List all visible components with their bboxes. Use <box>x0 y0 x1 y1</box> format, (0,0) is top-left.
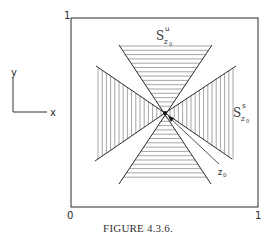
axis-indicator: y x <box>11 67 56 118</box>
x-axis-label: x <box>50 107 56 118</box>
cone-boundary-line <box>165 113 232 159</box>
cone-boundary-line <box>95 113 165 161</box>
label-z-sub: z <box>164 38 168 46</box>
corner-label-top-left: 1 <box>64 10 70 21</box>
cone-boundary-line <box>165 66 236 113</box>
z0-pointer-line <box>170 118 219 164</box>
unstable-cone-upper-hatching <box>120 46 212 106</box>
z0-label-main: z <box>218 168 222 177</box>
z0-label: z 0 <box>218 168 227 178</box>
label-s-main: S <box>233 106 241 120</box>
label-0-subsub: 0 <box>169 41 172 47</box>
label-z-sub: z <box>241 115 245 123</box>
label-s-main: S <box>156 29 164 43</box>
stable-region-label: S s z 0 <box>233 102 249 124</box>
label-0-subsub: 0 <box>246 118 249 124</box>
label-u-sup: u <box>165 25 169 33</box>
z0-label-sub: 0 <box>223 172 227 178</box>
corner-label-bottom-right: 1 <box>255 210 261 221</box>
figure-caption: FIGURE 4.3.6. <box>0 222 276 234</box>
label-s-sup: s <box>242 102 246 110</box>
figure-canvas: 1 0 1 y x S u z 0 S s z 0 z 0 <box>0 0 276 247</box>
stable-cone-right-hatching <box>170 68 233 160</box>
stable-cone-left-hatching <box>98 67 161 159</box>
y-axis-label: y <box>11 67 17 78</box>
unstable-region-label: S u z 0 <box>156 25 172 47</box>
corner-label-origin: 0 <box>67 210 73 221</box>
z0-point <box>163 111 167 115</box>
